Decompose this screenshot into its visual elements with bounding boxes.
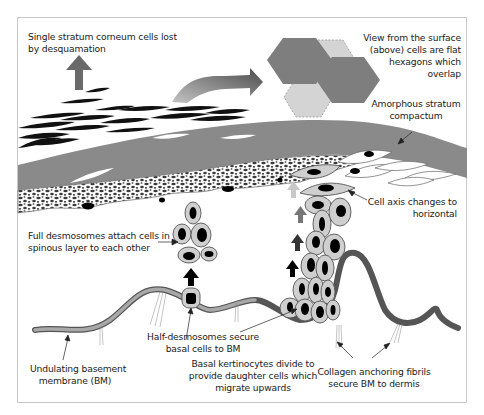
- basement-membrane: [35, 253, 458, 330]
- label-line: provide daughter cells which: [178, 370, 328, 382]
- label-line: basal cells to BM: [143, 343, 263, 355]
- label-stratum-compactum: Amorphous stratum compactum: [366, 98, 466, 122]
- label-line: horizontal: [368, 208, 457, 220]
- label-surface-view: View from the surface (above) cells are …: [363, 32, 461, 80]
- label-line: View from the surface: [363, 32, 461, 44]
- label-half-desmosomes: Half-desmosomes secure basal cells to BM: [143, 331, 263, 355]
- label-line: Full desmosomes attach cells in: [28, 230, 170, 242]
- basement-membrane-light: [35, 289, 255, 330]
- label-line: overlap: [363, 68, 461, 80]
- spinous-cell-cluster: [173, 202, 217, 263]
- label-line: by desquamation: [28, 43, 177, 55]
- basal-cell: [182, 288, 200, 308]
- label-line: Collagen anchoring fibrils: [312, 366, 436, 378]
- label-line: Basal kertinocytes divide to: [178, 358, 328, 370]
- label-desquamation: Single stratum corneum cells lost by des…: [28, 31, 177, 55]
- label-full-desmosomes: Full desmosomes attach cells in spinous …: [28, 230, 170, 254]
- label-cell-axis: Cell axis changes to horizontal: [368, 196, 457, 220]
- label-line: secure BM to dermis: [312, 378, 436, 390]
- upward-arrow-icon: [183, 268, 199, 286]
- label-line: Amorphous stratum: [366, 98, 466, 110]
- label-line: Undulating basement: [30, 363, 120, 375]
- label-basal-keratinocytes: Basal kertinocytes divide to provide dau…: [178, 358, 328, 394]
- label-basement-membrane: Undulating basement membrane (BM): [30, 363, 120, 387]
- label-line: Cell axis changes to: [368, 196, 457, 208]
- label-collagen-fibrils: Collagen anchoring fibrils secure BM to …: [312, 366, 436, 390]
- label-line: migrate upwards: [178, 382, 328, 394]
- label-line: compactum: [366, 110, 466, 122]
- label-line: spinous layer to each other: [28, 242, 170, 254]
- label-line: Single stratum corneum cells lost: [28, 31, 177, 43]
- label-line: Half-desmosomes secure: [143, 331, 263, 343]
- label-line: membrane (BM): [30, 375, 120, 387]
- curved-arrow-icon: [172, 68, 263, 103]
- label-line: (above) cells are flat: [363, 44, 461, 56]
- desquamation-arrow-icon: [66, 55, 92, 90]
- label-line: hexagons which: [363, 56, 461, 68]
